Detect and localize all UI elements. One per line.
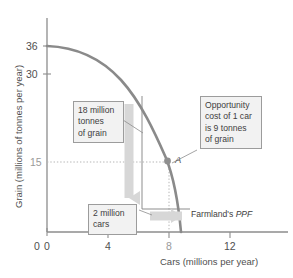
x-axis-title: Cars (millions per year) [160, 256, 258, 267]
cars-callout-line2: cars [93, 219, 132, 230]
cars-gained-callout: 2 million cars [88, 204, 137, 235]
grain-callout-line3: of grain [78, 128, 119, 139]
x-tick-4: 4 [105, 240, 111, 252]
grain-callout-line1: 18 million [78, 105, 119, 116]
y-tick-0: 0 [34, 240, 40, 252]
cars-callout-line1: 2 million [93, 208, 132, 219]
grain-callout-line2: tonnes [78, 116, 119, 127]
opportunity-cost-callout: Opportunity cost of 1 car is 9 tonnes of… [200, 96, 262, 149]
y-axis-title: Grain (millions of tonnes per year) [13, 65, 24, 208]
tradeoff-rectangle [142, 96, 190, 209]
leader-lines [123, 120, 197, 215]
y-tick-36: 36 [26, 40, 38, 52]
grain-sacrifice-callout: 18 million tonnes of grain [73, 101, 124, 143]
ppf-label-prefix: Farmland's [191, 209, 236, 219]
x-tick-12: 12 [224, 240, 236, 252]
opportunity-callout-line2: cost of 1 car [205, 111, 257, 122]
opportunity-callout-line4: of grain [205, 134, 257, 145]
y-tick-15: 15 [30, 156, 42, 168]
y-tick-30: 30 [26, 68, 38, 80]
point-a-label: A [175, 154, 181, 165]
ppf-curve-label: Farmland's PPF [191, 209, 252, 219]
opportunity-callout-line1: Opportunity [205, 100, 257, 111]
opportunity-callout-line3: is 9 tonnes [205, 123, 257, 134]
ppf-label-italic: PPF [236, 209, 253, 219]
x-tick-0: 0 [44, 240, 50, 252]
x-tick-8: 8 [166, 240, 172, 252]
point-a-marker [164, 158, 171, 165]
ppf-chart: Grain (millions of tonnes per year) Cars… [0, 0, 293, 278]
